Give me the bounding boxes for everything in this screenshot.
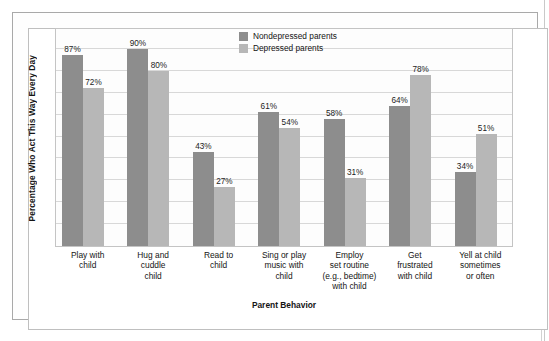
bar-value-label: 34% — [457, 162, 473, 171]
legend-entry[interactable]: Depressed parents — [239, 43, 337, 53]
bar-group: 87%72% — [56, 29, 121, 246]
bar-group: 34%51% — [449, 29, 514, 246]
bar-value-label: 61% — [261, 102, 277, 111]
x-axis-tick-label-line: or often — [448, 271, 513, 281]
x-axis-tick-label-line: with child — [317, 281, 382, 291]
bar-value-label: 87% — [64, 45, 80, 54]
x-axis-tick-label-line: child — [251, 271, 316, 281]
bar[interactable]: 64% — [389, 106, 410, 246]
x-axis-tick-label: Sing or playmusic withchild — [251, 250, 316, 281]
x-axis-tick-label-line: frustrated — [382, 260, 447, 270]
bar-value-label: 54% — [282, 118, 298, 127]
x-axis-tick-label-line: Yell at child — [448, 250, 513, 260]
x-axis-tick-label-line: Read to — [186, 250, 251, 260]
bar-value-label: 80% — [151, 61, 167, 70]
bar-group: 64%78% — [383, 29, 448, 246]
y-axis-title: Percentage Who Act This Way Every Day — [22, 28, 42, 248]
x-axis-tick-label: Yell at childsometimesor often — [448, 250, 513, 281]
bar[interactable]: 72% — [83, 88, 104, 246]
bar-value-label: 72% — [85, 78, 101, 87]
x-axis-tick-label: Employset routine(e.g., bedtime)with chi… — [317, 250, 382, 292]
bar-value-label: 31% — [347, 168, 363, 177]
bar-group: 90%80% — [121, 29, 186, 246]
bar-value-label: 27% — [216, 177, 232, 186]
x-axis-tick-label-line: Play with — [55, 250, 120, 260]
x-axis-tick-label-line: child — [120, 271, 185, 281]
legend-entry[interactable]: Nondepressed parents — [239, 31, 337, 41]
x-axis-tick-label-line: Sing or play — [251, 250, 316, 260]
x-axis-tick-label-line: child — [186, 260, 251, 270]
x-axis-tick-label: Read tochild — [186, 250, 251, 271]
x-axis-tick-label: Hug andcuddlechild — [120, 250, 185, 281]
bar[interactable]: 54% — [279, 128, 300, 246]
bar-group: 61%54% — [252, 29, 317, 246]
bar[interactable]: 78% — [410, 75, 431, 246]
bar[interactable]: 80% — [148, 71, 169, 246]
chart-legend: Nondepressed parentsDepressed parents — [239, 31, 337, 53]
bar-group: 43%27% — [187, 29, 252, 246]
legend-color-swatch — [239, 32, 248, 41]
x-axis-title: Parent Behavior — [55, 300, 513, 310]
bars-layer: 87%72%90%80%43%27%61%54%58%31%64%78%34%5… — [56, 29, 512, 246]
bar[interactable]: 61% — [258, 112, 279, 246]
x-axis-tick-label-line: set routine — [317, 260, 382, 270]
bar[interactable]: 90% — [127, 49, 148, 246]
bar-group: 58%31% — [318, 29, 383, 246]
bar[interactable]: 43% — [193, 152, 214, 246]
plot-area: 87%72%90%80%43%27%61%54%58%31%64%78%34%5… — [55, 28, 513, 247]
x-axis-tick-label: Play withchild — [55, 250, 120, 271]
bar-value-label: 58% — [326, 109, 342, 118]
bar-value-label: 90% — [130, 39, 146, 48]
bar[interactable]: 87% — [62, 55, 83, 246]
legend-label: Nondepressed parents — [253, 31, 337, 41]
x-axis-tick-label-line: Hug and — [120, 250, 185, 260]
legend-label: Depressed parents — [253, 43, 323, 53]
bar[interactable]: 27% — [214, 187, 235, 246]
bar-value-label: 43% — [195, 142, 211, 151]
x-axis-tick-label-line: (e.g., bedtime) — [317, 271, 382, 281]
x-axis-tick-label-line: music with — [251, 260, 316, 270]
bar-value-label: 64% — [391, 96, 407, 105]
bar[interactable]: 34% — [455, 172, 476, 246]
bar[interactable]: 31% — [345, 178, 366, 246]
x-axis-tick-label-line: Get — [382, 250, 447, 260]
bar-value-label: 51% — [478, 124, 494, 133]
bar[interactable]: 51% — [476, 134, 497, 246]
x-axis-tick-label-line: with child — [382, 271, 447, 281]
x-axis-tick-label-line: child — [55, 260, 120, 270]
y-axis-title-text: Percentage Who Act This Way Every Day — [27, 55, 37, 221]
bar-value-label: 78% — [412, 65, 428, 74]
bar[interactable]: 58% — [324, 119, 345, 246]
x-axis-tick-labels: Play withchildHug andcuddlechildRead toc… — [55, 250, 513, 298]
x-axis-tick-label: Getfrustratedwith child — [382, 250, 447, 281]
x-axis-tick-label-line: sometimes — [448, 260, 513, 270]
x-axis-tick-label-line: Employ — [317, 250, 382, 260]
x-axis-tick-label-line: cuddle — [120, 260, 185, 270]
legend-color-swatch — [239, 44, 248, 53]
